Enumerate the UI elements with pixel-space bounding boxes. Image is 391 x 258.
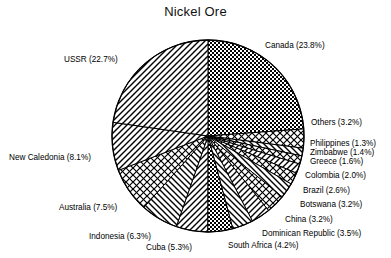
slice-label-australia: Australia (7.5%) xyxy=(59,203,117,212)
slice-label-dominican-republic: Dominican Republic (3.5%) xyxy=(262,229,361,238)
slice-label-philippines: Philippines (1.3%) xyxy=(310,139,376,148)
pie-slices xyxy=(112,40,304,232)
slice-label-china: China (3.2%) xyxy=(285,215,333,224)
slice-label-ussr: USSR (22.7%) xyxy=(64,55,118,64)
slice-label-new-caledonia: New Caledonia (8.1%) xyxy=(9,153,91,162)
slice-label-greece: Greece (1.6%) xyxy=(310,157,363,166)
slice-label-others: Others (3.2%) xyxy=(311,118,362,127)
slice-label-canada: Canada (23.8%) xyxy=(265,41,325,50)
pie-chart-figure: Nickel Ore Canada (23.8% xyxy=(0,0,391,258)
slice-label-indonesia: Indonesia (6.3%) xyxy=(89,232,151,241)
pie-slice-ussr xyxy=(113,40,208,136)
slice-label-zimbabwe: Zimbabwe (1.4%) xyxy=(310,148,374,157)
slice-label-botswana: Botswana (3.2%) xyxy=(300,200,362,209)
slice-label-brazil: Brazil (2.6%) xyxy=(303,186,350,195)
pie-slice-canada xyxy=(208,40,304,136)
slice-label-colombia: Colombia (2.0%) xyxy=(305,171,366,180)
slice-label-cuba: Cuba (5.3%) xyxy=(146,243,192,252)
slice-label-south-africa: South Africa (4.2%) xyxy=(228,241,299,250)
